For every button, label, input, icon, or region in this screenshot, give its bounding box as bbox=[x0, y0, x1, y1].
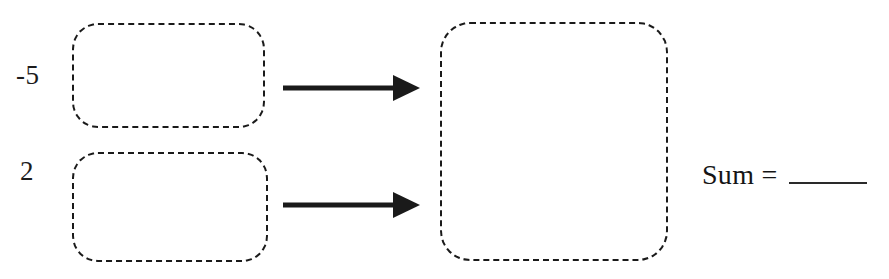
operand-label-2: 2 bbox=[20, 158, 34, 185]
worksheet-canvas: -5 2 Sum = bbox=[0, 0, 889, 279]
operand-label-1: -5 bbox=[16, 62, 40, 89]
arrow-head bbox=[393, 192, 420, 218]
result-box[interactable] bbox=[440, 22, 668, 261]
arrow-head bbox=[393, 75, 420, 101]
sum-expression: Sum = bbox=[702, 160, 867, 189]
sum-answer-blank[interactable] bbox=[789, 160, 867, 184]
arrow-addend-1-to-result bbox=[283, 73, 423, 103]
sum-label: Sum = bbox=[702, 161, 778, 189]
arrow-addend-2-to-result bbox=[283, 190, 423, 220]
addend-box-1[interactable] bbox=[72, 23, 265, 128]
addend-box-2[interactable] bbox=[72, 152, 268, 262]
